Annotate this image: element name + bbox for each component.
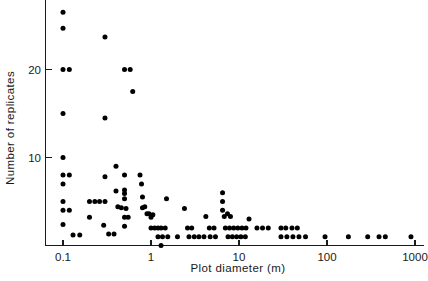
data-point (160, 234, 165, 239)
data-point (408, 234, 413, 239)
data-point (67, 208, 72, 213)
data-point (122, 173, 127, 178)
data-point (220, 190, 225, 195)
data-point (61, 199, 66, 204)
data-point (138, 173, 143, 178)
data-point (102, 34, 107, 39)
data-point (122, 67, 127, 72)
data-point (67, 67, 72, 72)
data-point (266, 225, 271, 230)
plot-canvas: 0.11101001000 1020 Plot diameter (m) Num… (0, 0, 428, 281)
data-points-layer (61, 10, 414, 248)
data-point (128, 67, 133, 72)
data-point (61, 26, 66, 31)
data-point (71, 232, 76, 237)
data-point (97, 199, 102, 204)
data-point (175, 234, 180, 239)
x-tick-label: 1 (148, 251, 154, 263)
data-point (323, 234, 328, 239)
data-point (113, 188, 118, 193)
data-point (295, 225, 300, 230)
data-point (106, 232, 111, 237)
data-point (102, 174, 107, 179)
data-point (124, 206, 129, 211)
data-point (87, 199, 92, 204)
data-point (212, 225, 217, 230)
data-point (164, 196, 169, 201)
data-point (303, 234, 308, 239)
data-point (346, 234, 351, 239)
data-point (383, 234, 388, 239)
data-point (278, 225, 283, 230)
data-point (122, 196, 127, 201)
x-tick-label: 0.1 (55, 251, 71, 263)
data-point (228, 214, 233, 219)
data-point (61, 181, 66, 186)
data-point (61, 111, 66, 116)
data-point (87, 215, 92, 220)
data-point (192, 234, 197, 239)
data-point (67, 173, 72, 178)
data-point (102, 115, 107, 120)
data-point (283, 225, 288, 230)
data-point (247, 217, 252, 222)
data-point (220, 199, 225, 204)
data-point (230, 234, 235, 239)
data-point (61, 67, 66, 72)
data-point (159, 243, 164, 248)
scatter-plot-figure: 0.11101001000 1020 Plot diameter (m) Num… (0, 0, 428, 281)
data-point (150, 212, 155, 217)
data-point (196, 234, 201, 239)
data-point (163, 225, 168, 230)
data-point (112, 232, 117, 237)
data-point (220, 208, 225, 213)
data-point (254, 225, 259, 230)
data-point (278, 234, 283, 239)
data-point (207, 225, 212, 230)
data-point (113, 164, 118, 169)
data-point (139, 181, 144, 186)
data-point (61, 222, 66, 227)
data-point (165, 234, 170, 239)
data-point (186, 234, 191, 239)
data-point (130, 89, 135, 94)
data-point (208, 234, 213, 239)
data-point (142, 204, 147, 209)
data-point (126, 215, 131, 220)
data-point (213, 234, 218, 239)
x-axis-title: Plot diameter (m) (191, 262, 286, 274)
data-point (377, 234, 382, 239)
data-point (155, 234, 160, 239)
data-point (122, 224, 127, 229)
data-point (290, 234, 295, 239)
data-point (140, 195, 145, 200)
data-point (243, 225, 248, 230)
data-point (77, 232, 82, 237)
y-axis-title: Number of replicates (4, 71, 16, 185)
axes-group (45, 0, 424, 246)
data-point (260, 225, 265, 230)
data-point (122, 191, 127, 196)
x-axis-ticks: 0.11101001000 (55, 240, 428, 263)
data-point (243, 234, 248, 239)
data-point (61, 208, 66, 213)
data-point (226, 234, 231, 239)
data-point (365, 234, 370, 239)
data-point (289, 225, 294, 230)
data-point (203, 214, 208, 219)
x-tick-label: 1000 (402, 251, 428, 263)
data-point (189, 225, 194, 230)
data-point (102, 199, 107, 204)
y-tick-label: 10 (28, 152, 41, 164)
y-tick-label: 20 (28, 64, 41, 76)
y-axis-ticks: 1020 (28, 64, 51, 164)
data-point (61, 173, 66, 178)
data-point (238, 234, 243, 239)
data-point (61, 155, 66, 160)
data-point (61, 10, 66, 15)
data-point (119, 205, 124, 210)
data-point (182, 206, 187, 211)
x-tick-label: 10 (233, 251, 246, 263)
x-tick-label: 100 (317, 251, 336, 263)
data-point (284, 234, 289, 239)
